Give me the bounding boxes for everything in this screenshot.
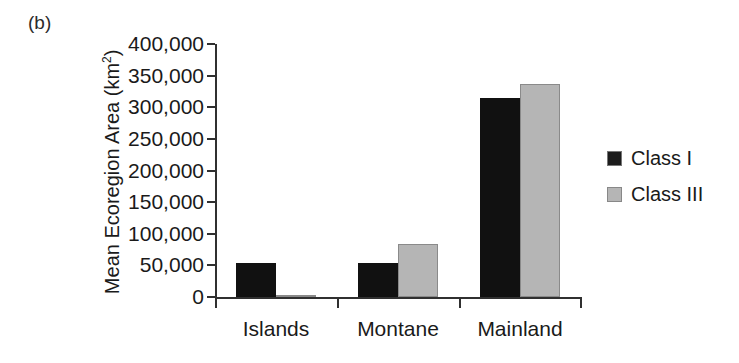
- figure-panel-b: (b) Mean Ecoregion Area (km2) 050,000100…: [0, 0, 739, 363]
- y-axis-line: [215, 44, 217, 298]
- bar-montane-class-i: [358, 263, 398, 297]
- legend-label: Class I: [631, 148, 692, 168]
- y-tick-mark: [207, 43, 215, 45]
- x-category-label-mainland: Mainland: [459, 316, 581, 342]
- y-axis-tick-labels: 050,000100,000150,000200,000250,000300,0…: [96, 0, 204, 363]
- bar-islands-class-i: [236, 263, 276, 297]
- y-tick-label: 250,000: [96, 128, 204, 149]
- y-tick-label: 150,000: [96, 191, 204, 212]
- x-axis-line: [215, 297, 582, 299]
- x-category-label-montane: Montane: [337, 316, 459, 342]
- bar-mainland-class-iii: [520, 84, 560, 297]
- plot-area: [215, 44, 581, 297]
- y-tick-mark: [207, 106, 215, 108]
- y-tick-label: 200,000: [96, 160, 204, 181]
- legend-item-class-i[interactable]: Class I: [607, 140, 733, 176]
- legend-swatch-icon: [607, 187, 622, 202]
- y-tick-label: 400,000: [96, 33, 204, 54]
- legend-item-class-iii[interactable]: Class III: [607, 176, 733, 212]
- y-tick-label: 50,000: [96, 254, 204, 275]
- y-tick-mark: [207, 75, 215, 77]
- y-tick-label: 300,000: [96, 96, 204, 117]
- y-tick-mark: [207, 296, 215, 298]
- bar-islands-class-iii: [276, 295, 316, 297]
- bar-mainland-class-i: [480, 98, 520, 297]
- y-tick-label: 0: [96, 286, 204, 307]
- x-axis-category-labels: IslandsMontaneMainland: [215, 316, 581, 350]
- bar-montane-class-iii: [398, 244, 438, 297]
- y-tick-mark: [207, 233, 215, 235]
- x-tick-mark: [337, 299, 339, 308]
- y-tick-label: 100,000: [96, 223, 204, 244]
- y-tick-mark: [207, 201, 215, 203]
- x-tick-mark: [215, 299, 217, 308]
- x-tick-mark: [459, 299, 461, 308]
- y-tick-mark: [207, 170, 215, 172]
- panel-label: (b): [28, 12, 51, 34]
- x-category-label-islands: Islands: [215, 316, 337, 342]
- y-tick-mark: [207, 264, 215, 266]
- legend: Class IClass III: [607, 140, 733, 212]
- legend-label: Class III: [631, 184, 703, 204]
- legend-swatch-icon: [607, 151, 622, 166]
- y-tick-label: 350,000: [96, 65, 204, 86]
- x-tick-mark: [580, 299, 582, 308]
- y-tick-mark: [207, 138, 215, 140]
